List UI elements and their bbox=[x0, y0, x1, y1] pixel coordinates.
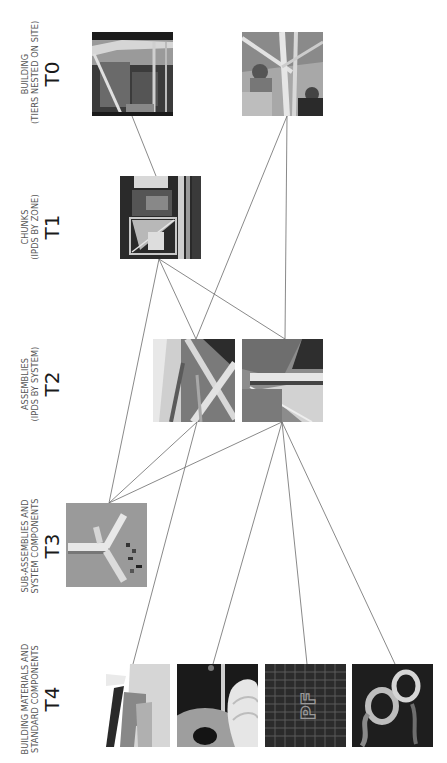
tier-label-t3: SUB-ASSEMBLIES AND SYSTEM COMPONENTS T3 bbox=[20, 496, 63, 596]
tier-t3-subtitle: SYSTEM COMPONENTS bbox=[30, 496, 40, 596]
node-t4a-translucent-panel-photo bbox=[106, 664, 170, 747]
edge-t0b-t2a bbox=[196, 116, 287, 339]
edge-t2b-t4c bbox=[282, 422, 307, 664]
tier-label-t1: CHUNKS (IPDS BY ZONE) T1 bbox=[20, 192, 63, 262]
edge-t2b-t4b bbox=[213, 422, 282, 664]
tier-t2-title: ASSEMBLIES bbox=[20, 343, 30, 425]
node-t2b-assembly-rail-panel-photo bbox=[242, 339, 323, 422]
node-t4d-tape-rolls-photo bbox=[352, 664, 433, 747]
tier-t3-title: SUB-ASSEMBLIES AND bbox=[20, 496, 30, 596]
tier-t1-subtitle: (IPDS BY ZONE) bbox=[30, 192, 40, 262]
tier-t3-code: T3 bbox=[41, 496, 63, 596]
node-t0b-workers-on-frame-photo bbox=[242, 32, 323, 116]
edge-t2a-t3a bbox=[109, 422, 197, 503]
edge-t0a-t1a bbox=[132, 116, 156, 176]
tier-label-t4: BUILDING MATERIALS AND STANDARD COMPONEN… bbox=[20, 640, 63, 758]
tier-t4-title: BUILDING MATERIALS AND bbox=[20, 640, 30, 758]
edge-t2b-t3a bbox=[109, 422, 282, 503]
tier-t4-subtitle: STANDARD COMPONENTS bbox=[30, 640, 40, 758]
svg-text:PF: PF bbox=[296, 692, 320, 720]
node-t0a-building-frame-photo bbox=[92, 32, 173, 116]
node-t3a-aluminum-extrusion-connectors-photo bbox=[66, 503, 147, 587]
tier-label-t2: ASSEMBLIES (IPDS BY SYSTEM) T2 bbox=[20, 343, 63, 425]
tier-t2-code: T2 bbox=[41, 343, 63, 425]
node-t4c-pf-grid-mesh-photo: PF bbox=[265, 664, 346, 747]
tier-t1-title: CHUNKS bbox=[20, 192, 30, 262]
node-t4b-film-rolls-photo bbox=[177, 664, 258, 747]
tier-label-t0: BUILDING (TIERS NESTED ON SITE) T0 bbox=[20, 24, 63, 124]
edge-t2b-t4d bbox=[282, 422, 395, 664]
tier-t4-code: T4 bbox=[41, 640, 63, 758]
node-t1a-chunk-frame-photo bbox=[120, 176, 201, 259]
edge-t1a-t3a bbox=[109, 259, 159, 503]
tier-t0-title: BUILDING bbox=[20, 24, 30, 124]
tier-t0-code: T0 bbox=[41, 24, 63, 124]
node-t2a-assembly-diagonal-struts-photo bbox=[153, 339, 235, 422]
tier-t1-code: T1 bbox=[41, 192, 63, 262]
edge-t0b-t2b bbox=[285, 116, 287, 339]
tier-t0-subtitle: (TIERS NESTED ON SITE) bbox=[30, 24, 40, 124]
tier-t2-subtitle: (IPDS BY SYSTEM) bbox=[30, 343, 40, 425]
